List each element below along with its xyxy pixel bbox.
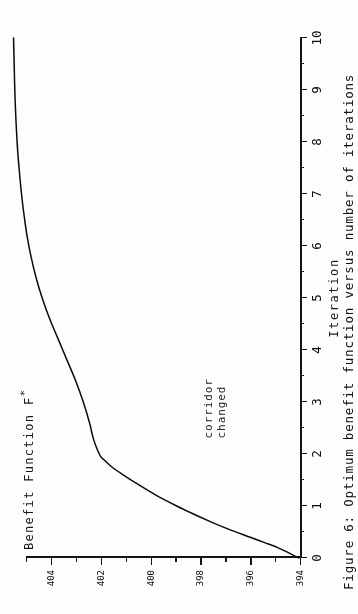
figure-plate: 012345678910 394396398400402404 Benefit … — [0, 0, 358, 614]
corridor-changed-annotation: corridor changed — [203, 378, 229, 438]
curve-path — [14, 38, 299, 558]
y-axis-title-text: Benefit Function F — [22, 397, 36, 550]
x-axis-title: Iteration — [327, 258, 341, 337]
annotation-line-2: changed — [216, 378, 229, 438]
benefit-function-curve — [0, 0, 358, 614]
y-axis-title-star: * — [18, 390, 31, 397]
y-axis-title: Benefit Function F* — [18, 390, 36, 550]
scanned-figure-page: 012345678910 394396398400402404 Benefit … — [0, 0, 358, 614]
figure-caption: Figure 6: Optimum benefit function versu… — [341, 74, 356, 590]
